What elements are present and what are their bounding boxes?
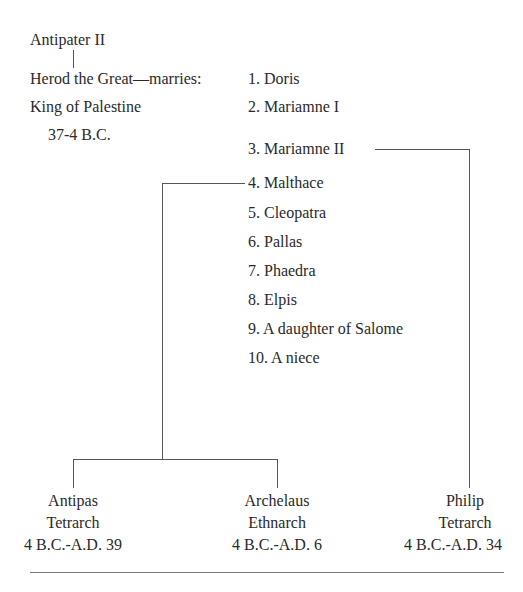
antipas-drop-line (73, 459, 74, 488)
archelaus-drop-line (277, 459, 278, 488)
herod-reign: 37-4 B.C. (48, 126, 111, 144)
malthace-stem (162, 183, 163, 460)
philip-drop-line (469, 149, 470, 488)
child-name: Archelaus (232, 492, 322, 510)
children-branch (73, 459, 278, 460)
child-title: Tetrarch (415, 514, 515, 532)
child-name: Antipas (28, 492, 118, 510)
wife-item: 6. Pallas (248, 233, 302, 251)
child-dates: 4 B.C.-A.D. 34 (398, 536, 508, 554)
child-title: Ethnarch (232, 514, 322, 532)
mariamne-ii-connector (375, 149, 470, 150)
ancestor-connector (73, 50, 74, 68)
child-dates: 4 B.C.-A.D. 6 (227, 536, 327, 554)
herod-name: Herod the Great—marries: (30, 70, 201, 88)
wife-item: 5. Cleopatra (248, 204, 326, 222)
wife-item: 1. Doris (248, 70, 300, 88)
wife-item: 4. Malthace (248, 174, 324, 192)
herod-title: King of Palestine (30, 98, 141, 116)
wife-item: 3. Mariamne II (248, 140, 344, 158)
ancestor-name: Antipater II (30, 31, 105, 49)
wife-item: 9. A daughter of Salome (248, 320, 403, 338)
wife-item: 8. Elpis (248, 291, 297, 309)
wife-item: 2. Mariamne I (248, 98, 339, 116)
wife-item: 7. Phaedra (248, 262, 316, 280)
malthace-connector (162, 183, 245, 184)
child-title: Tetrarch (28, 514, 118, 532)
child-name: Philip (415, 492, 515, 510)
wife-item: 10. A niece (248, 349, 320, 367)
bottom-divider (30, 572, 504, 573)
child-dates: 4 B.C.-A.D. 39 (23, 536, 123, 554)
